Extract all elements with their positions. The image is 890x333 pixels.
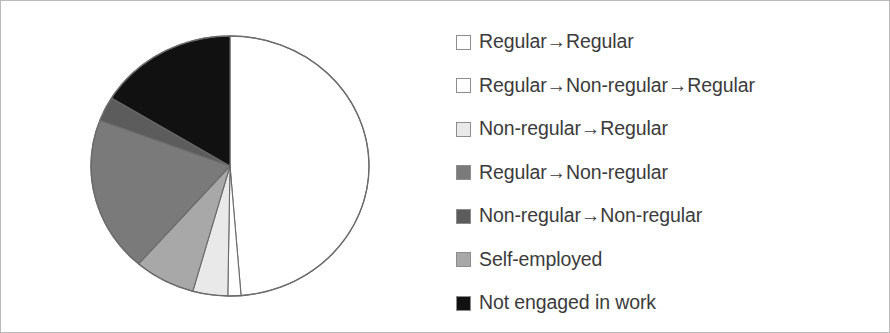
legend-item-label: Regular→Non-regular→Regular [479,76,755,96]
legend-item[interactable]: Non-regular→Non-regular [456,203,702,229]
legend-item[interactable]: Regular→Non-regular [456,160,668,186]
legend-item[interactable]: Regular→Regular [456,29,634,55]
legend-swatch-regular-nonregular [456,165,471,180]
legend-item-label: Regular→Regular [479,32,634,52]
legend-item[interactable]: Non-regular→Regular [456,116,668,142]
legend-item-label: Not engaged in work [479,293,656,313]
legend-swatch-nonregular-nonregular [456,209,471,224]
legend-item[interactable]: Self-employed [456,247,602,273]
legend-item[interactable]: Regular→Non-regular→Regular [456,73,755,99]
chart-legend: Regular→RegularRegular→Non-regular→Regul… [456,21,876,321]
legend-swatch-not-engaged [456,296,471,311]
pie-chart-svg [71,15,381,320]
legend-item-label: Non-regular→Non-regular [479,206,702,226]
legend-swatch-regular-nonregular-regular [456,78,471,93]
legend-item-label: Self-employed [479,250,602,270]
legend-swatch-self-employed [456,252,471,267]
legend-swatch-nonregular-regular [456,122,471,137]
legend-item-label: Regular→Non-regular [479,163,668,183]
pie-chart-figure: Regular→RegularRegular→Non-regular→Regul… [0,0,890,333]
legend-item[interactable]: Not engaged in work [456,290,656,316]
pie-chart-plot-area [71,15,381,320]
pie-slice-group [91,36,369,296]
pie-slice[interactable] [230,36,369,296]
legend-swatch-regular-regular [456,35,471,50]
legend-item-label: Non-regular→Regular [479,119,668,139]
